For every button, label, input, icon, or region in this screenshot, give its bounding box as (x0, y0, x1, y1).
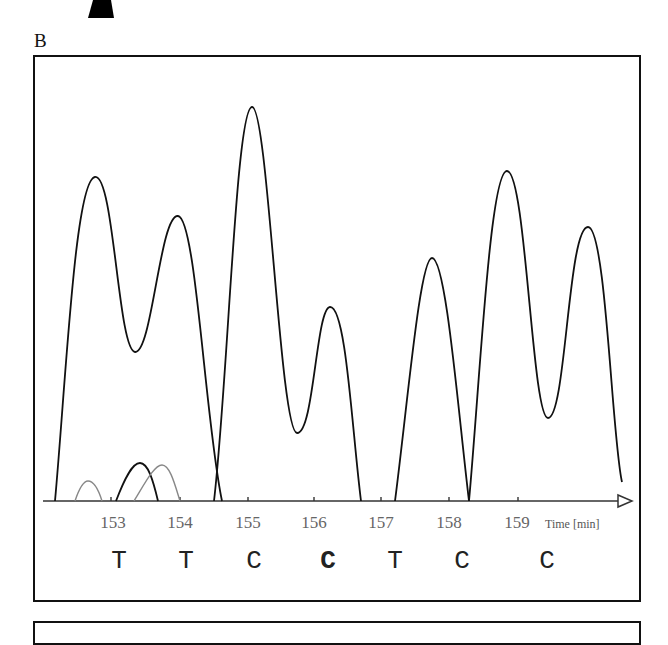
x-tick-label: 157 (368, 513, 394, 533)
x-tick-label: 154 (167, 513, 193, 533)
axis-arrow-icon (618, 495, 632, 507)
base-call: C (454, 546, 470, 576)
x-tick-label: 155 (235, 513, 261, 533)
trace-peaks-1-2 (55, 177, 222, 501)
base-call: T (111, 546, 127, 576)
base-call: C (539, 546, 555, 576)
base-call-highlighted: C (320, 546, 336, 576)
x-tick-label: 158 (436, 513, 462, 533)
base-call: C (246, 546, 262, 576)
x-axis-title: Time [min] (545, 517, 600, 532)
x-tick-label: 156 (301, 513, 327, 533)
minor-peak-gray-1 (75, 481, 102, 501)
trace-peaks-6-7 (469, 171, 622, 501)
x-tick-label: 153 (100, 513, 126, 533)
base-call: T (387, 546, 403, 576)
x-tick-label: 159 (504, 513, 530, 533)
trace-peak-5 (395, 258, 469, 501)
base-call: T (178, 546, 194, 576)
trace-peaks-3-4 (214, 107, 361, 501)
